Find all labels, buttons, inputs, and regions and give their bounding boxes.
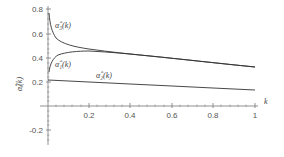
label-alpha2: α̂₂(k) [96, 71, 112, 80]
y-tick-0.6: 0.6 [32, 30, 44, 39]
chart: 0.8 0.6 0.4 0.2 -0.2 0.2 0.4 0.6 0.8 1 k… [0, 0, 284, 157]
label-alpha3: α̂₃(k) [55, 21, 71, 30]
x-axis [40, 103, 258, 108]
label-alpha1: α̂₁(k) [55, 60, 71, 69]
y-tick-minus-0.2: -0.2 [29, 126, 43, 135]
curve-alpha1 [49, 51, 255, 72]
x-tick-0.6: 0.6 [166, 111, 178, 120]
x-tick-1: 1 [253, 111, 258, 120]
curve-alpha3 [49, 13, 255, 67]
y-axis-label: α̂ⱼ(k) [15, 77, 24, 91]
y-axis [46, 6, 51, 145]
x-tick-0.2: 0.2 [83, 111, 95, 120]
x-axis-label: k [264, 97, 268, 106]
x-tick-0.8: 0.8 [207, 111, 219, 120]
curve-alpha2 [48, 80, 255, 90]
x-tick-0.4: 0.4 [124, 111, 136, 120]
y-tick-0.2: 0.2 [32, 78, 44, 87]
y-tick-0.8: 0.8 [32, 5, 44, 14]
y-tick-0.4: 0.4 [32, 54, 44, 63]
